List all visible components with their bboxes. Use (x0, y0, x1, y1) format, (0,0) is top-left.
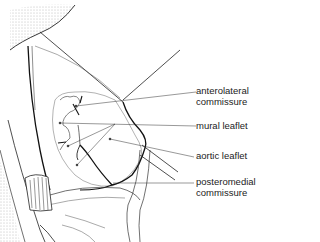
label-mural-leaflet: mural leaflet (196, 121, 248, 132)
valve-outline (53, 92, 142, 187)
label-line: anterolateral (196, 86, 249, 97)
label-line: aortic leaflet (196, 151, 247, 162)
label-aortic-leaflet: aortic leaflet (196, 151, 247, 162)
label-line: mural leaflet (196, 121, 248, 132)
label-line: commissure (196, 188, 256, 199)
label-posteromedial-commissure: posteromedial commissure (196, 177, 256, 198)
label-line: commissure (196, 97, 249, 108)
label-line: posteromedial (196, 177, 256, 188)
label-anterolateral-commissure: anterolateral commissure (196, 86, 249, 107)
